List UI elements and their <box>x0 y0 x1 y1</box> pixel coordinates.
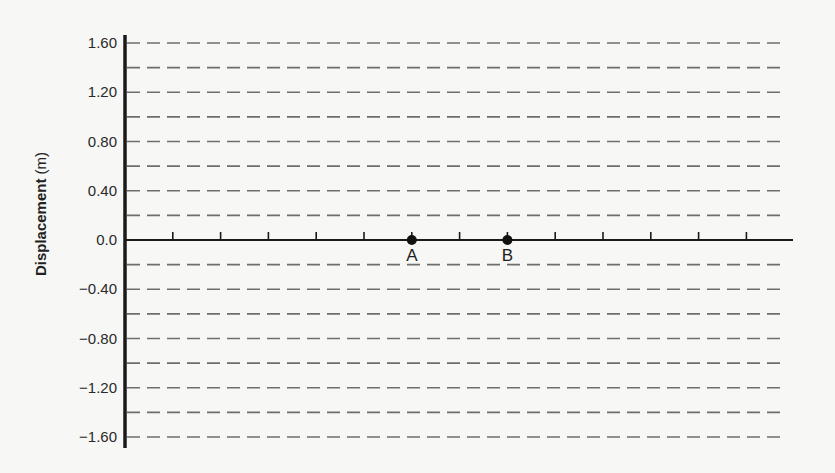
y-axis-title: Displacement (m) <box>32 152 49 276</box>
displacement-chart <box>0 0 835 473</box>
y-tick-label: 0.40 <box>57 182 117 199</box>
point-a <box>407 235 417 245</box>
y-tick-label: −0.80 <box>57 330 117 347</box>
y-tick-label: 1.20 <box>57 83 117 100</box>
y-tick-label: 0.80 <box>57 133 117 150</box>
y-tick-label: −1.60 <box>57 428 117 445</box>
y-axis-title-unit: (m) <box>32 152 49 175</box>
y-tick-label: 0.0 <box>57 231 117 248</box>
y-tick-label: 1.60 <box>57 34 117 51</box>
y-tick-label: −1.20 <box>57 379 117 396</box>
x-ticks <box>173 232 747 240</box>
y-axis-title-main: Displacement <box>32 179 49 277</box>
axes <box>125 35 793 448</box>
point-b <box>502 235 512 245</box>
point-label-b: B <box>497 246 517 266</box>
point-label-a: A <box>402 246 422 266</box>
y-tick-label: −0.40 <box>57 280 117 297</box>
